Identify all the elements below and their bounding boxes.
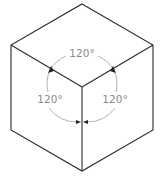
angle-label-left: 120°	[37, 93, 62, 105]
angle-label-right: 120°	[102, 93, 127, 105]
isometric-cube-diagram: 120° 120° 120°	[0, 0, 160, 177]
angle-label-top: 120°	[69, 47, 94, 59]
